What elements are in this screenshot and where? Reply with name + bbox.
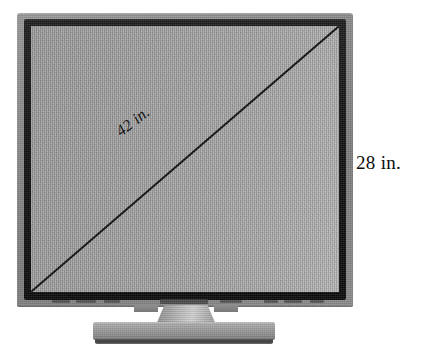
height-length-label: 28 in.	[356, 152, 401, 174]
monitor-casing	[17, 13, 353, 307]
bezel-button-mark	[104, 300, 120, 303]
stand-shoulder-left	[134, 305, 158, 312]
bezel-control-strip	[24, 298, 346, 306]
monitor-diagram: 42 in. 28 in.	[0, 0, 425, 355]
bezel-button-mark	[76, 300, 96, 303]
bezel-button-mark	[310, 300, 324, 303]
bezel-button-mark	[284, 300, 302, 303]
stand-base-edge	[95, 339, 273, 344]
bezel-button-mark	[220, 300, 242, 303]
monitor-bezel	[24, 19, 346, 300]
stand-shoulder-right	[214, 305, 238, 312]
screen-diagonal-overlay	[31, 26, 339, 292]
bezel-brand-mark	[160, 299, 208, 304]
stand-base	[93, 322, 275, 340]
bezel-button-mark	[52, 300, 70, 303]
diagonal-measure-line	[32, 27, 338, 291]
monitor-screen	[31, 26, 339, 292]
bezel-button-mark	[264, 300, 278, 303]
